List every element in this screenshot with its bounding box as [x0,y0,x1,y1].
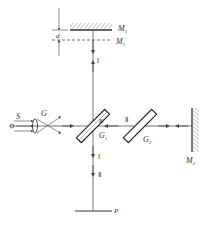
label-m2: M2 [185,156,196,166]
label-beam2-horizontal: Ⅱ [125,116,128,124]
label-m1-prime: M1′ [115,37,127,47]
label-p: P [113,207,119,215]
label-g: G [41,109,47,118]
mirror-m1 [70,23,112,30]
michelson-interferometer-diagram: M1 M1′ d Ⅰ S G K G1 Ⅱ G2 M2 [0,0,207,225]
label-d: d [56,32,60,40]
label-k: K [98,117,104,125]
mirror-m2 [192,108,199,152]
label-g1: G1 [99,131,107,141]
label-beam1-upper: Ⅰ [97,57,99,65]
label-beam2-lower: Ⅱ [98,171,101,179]
label-beam1-lower: Ⅰ [98,153,100,161]
label-s: S [16,112,20,121]
label-m1: M1 [117,24,127,34]
label-g2: G2 [143,135,152,145]
